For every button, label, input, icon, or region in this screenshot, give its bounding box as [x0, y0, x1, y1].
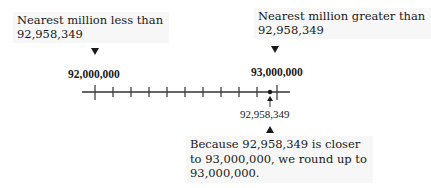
point-label: 92,958,349	[240, 108, 290, 120]
point-marker	[268, 90, 272, 94]
explanation-callout: Because 92,958,349 is closer to 93,000,0…	[186, 136, 373, 183]
explanation-pointer-arrow-icon	[266, 126, 274, 133]
explanation-line2: to 93,000,000, we round up to	[190, 152, 367, 167]
explanation-line3: 93,000,000.	[190, 166, 367, 181]
explanation-line1: Because 92,958,349 is closer	[190, 137, 367, 152]
point-arrow-icon	[267, 96, 273, 101]
